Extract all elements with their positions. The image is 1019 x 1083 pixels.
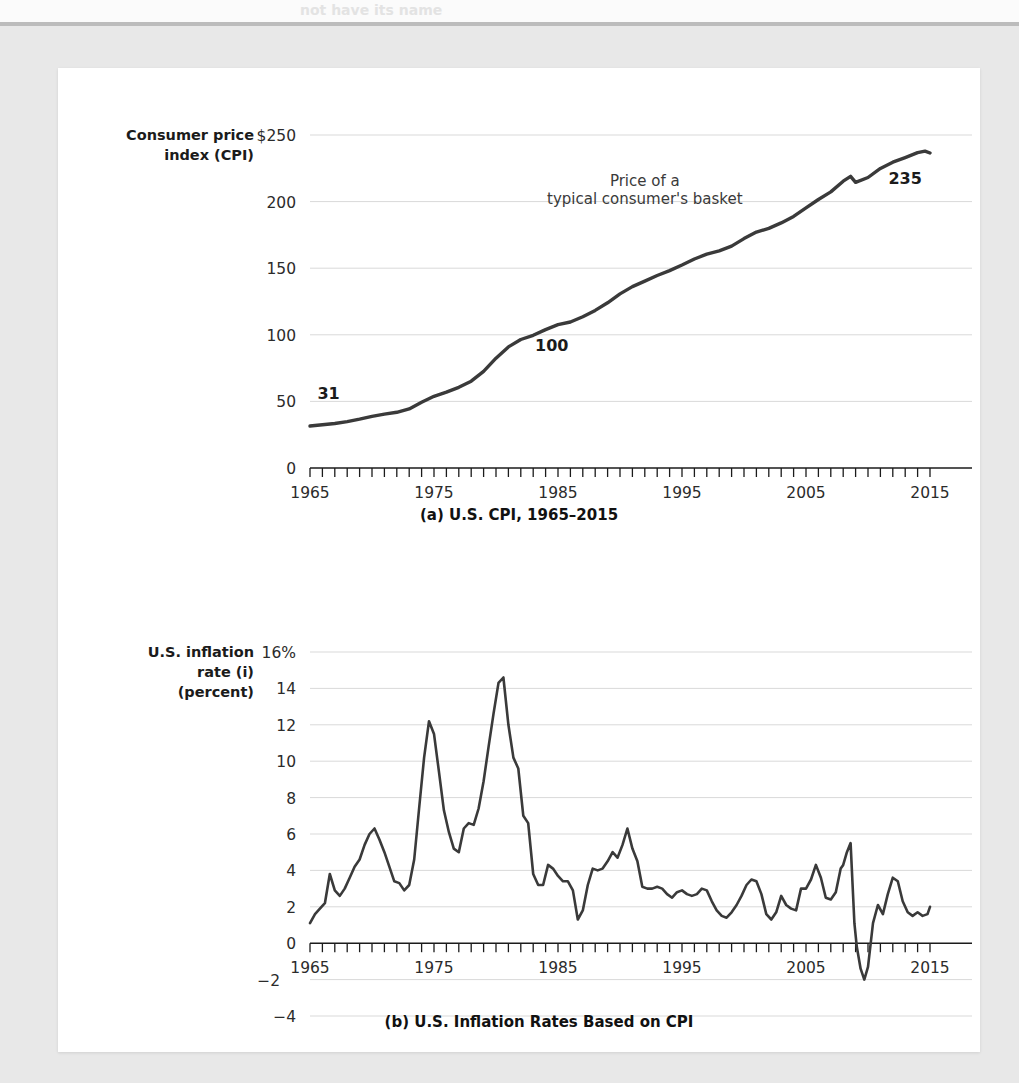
cpi-annotations: Price of atypical consumer's basket31100…: [317, 169, 921, 402]
svg-text:150: 150: [266, 260, 296, 278]
svg-text:200: 200: [266, 194, 296, 212]
svg-text:1995: 1995: [662, 959, 701, 977]
cpi-y-axis-title-line2: index (CPI): [164, 147, 254, 163]
figure-card: $250200150100500 19651975198519952005201…: [58, 68, 980, 1052]
svg-text:1975: 1975: [414, 484, 453, 502]
svg-text:1975: 1975: [414, 959, 453, 977]
svg-text:Price of a: Price of a: [610, 172, 680, 190]
svg-text:2005: 2005: [786, 484, 825, 502]
cpi-x-ticks: [310, 468, 930, 477]
svg-text:−2: −2: [257, 972, 280, 990]
svg-text:0: 0: [286, 935, 296, 953]
svg-text:typical consumer's basket: typical consumer's basket: [547, 190, 743, 208]
chart-inflation: 16%14121086420−2−4 196519751985199520052…: [58, 558, 980, 1052]
svg-text:14: 14: [276, 680, 296, 698]
svg-text:8: 8: [286, 790, 296, 808]
page-divider-strip: [0, 22, 1019, 26]
inflation-caption: (b) U.S. Inflation Rates Based on CPI: [385, 1013, 694, 1031]
cpi-y-axis-title-line1: Consumer price: [126, 127, 254, 143]
svg-text:$250: $250: [257, 127, 296, 145]
svg-text:−4: −4: [273, 1008, 296, 1026]
svg-text:2: 2: [286, 899, 296, 917]
svg-text:100: 100: [535, 336, 568, 355]
svg-text:4: 4: [286, 862, 296, 880]
inflation-x-tick-labels: 196519751985199520052015: [290, 959, 949, 977]
cpi-x-tick-labels: 196519751985199520052015: [290, 484, 949, 502]
inflation-gridlines: [310, 652, 972, 1016]
svg-text:1965: 1965: [290, 484, 329, 502]
svg-text:100: 100: [266, 327, 296, 345]
page-top-margin: [0, 0, 1019, 22]
chart-cpi: $250200150100500 19651975198519952005201…: [58, 68, 980, 558]
svg-text:10: 10: [276, 753, 296, 771]
svg-text:31: 31: [317, 384, 339, 403]
inflation-y-axis-title-line1: U.S. inflation: [148, 644, 254, 660]
svg-text:50: 50: [276, 393, 296, 411]
svg-text:1985: 1985: [538, 959, 577, 977]
svg-text:2015: 2015: [910, 484, 949, 502]
cpi-y-tick-labels: $250200150100500: [257, 127, 296, 478]
inflation-x-ticks: [310, 943, 930, 952]
svg-text:235: 235: [888, 169, 921, 188]
inflation-y-axis-title-line3: (percent): [178, 684, 254, 700]
svg-text:0: 0: [286, 460, 296, 478]
svg-text:2005: 2005: [786, 959, 825, 977]
cpi-caption: (a) U.S. CPI, 1965–2015: [420, 506, 618, 524]
inflation-series-line: [310, 678, 930, 980]
svg-text:16%: 16%: [262, 644, 296, 662]
svg-text:6: 6: [286, 826, 296, 844]
svg-text:2015: 2015: [910, 959, 949, 977]
chart-cpi-svg: $250200150100500 19651975198519952005201…: [58, 68, 980, 558]
svg-text:1985: 1985: [538, 484, 577, 502]
svg-text:1995: 1995: [662, 484, 701, 502]
svg-text:12: 12: [276, 717, 296, 735]
svg-text:1965: 1965: [290, 959, 329, 977]
inflation-y-axis-title-line2: rate (i): [197, 664, 254, 680]
chart-inflation-svg: 16%14121086420−2−4 196519751985199520052…: [58, 558, 980, 1052]
